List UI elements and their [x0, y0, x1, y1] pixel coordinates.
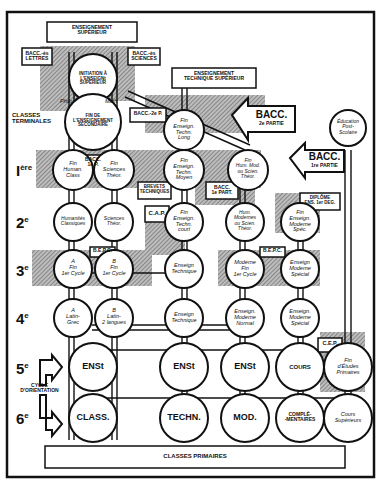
text-line: Spécial — [282, 272, 318, 278]
box-bepc-left: B.E.P.C. — [90, 248, 115, 253]
node-fin-1er-cycle-b: B Fin 1er Cycle — [96, 259, 132, 276]
text-line: BACC. — [248, 110, 295, 121]
level-6e: 6e — [16, 410, 29, 427]
node-ens-1: ENSt — [73, 362, 113, 371]
node-techn: TECHN. — [161, 413, 207, 422]
node-fin-sciences-theor: Fin Sciences Théor. — [96, 161, 132, 178]
arrow-cycle-6e-icon — [40, 395, 62, 436]
arrow-cycle-5e-icon — [40, 355, 62, 385]
node-enseign-moderne-special-4: Enseign. Moderne Spécial — [282, 309, 318, 326]
text-line: court — [166, 227, 202, 233]
text-line: TECHNIQUE SUPÉRIEUR — [172, 76, 256, 81]
text-line: TECHNIQUES — [138, 190, 171, 195]
node-fin-ens-moderne-spec: Fin Enseign. Moderne Spéc. — [282, 210, 318, 233]
box-bepc-right: B.E.P.C. — [260, 248, 285, 253]
text-line: 1er Cycle — [55, 271, 91, 277]
text-line: Technique — [166, 269, 202, 275]
level-suffix: e — [24, 215, 28, 224]
node-fin-1er-cycle-a: A Fin 1er Cycle — [55, 259, 91, 276]
node-enseign-technique-4: Enseign Technique — [166, 312, 202, 324]
box-bacc-sciences: BACC.-ès SCIENCES — [128, 51, 160, 62]
label-classes-terminales: CLASSES TERMINALES — [12, 112, 52, 125]
text-line: Théor. — [230, 174, 266, 179]
node-fin-tech-long: Fin Enseign. Techn. Long — [166, 118, 202, 141]
text-line: 1er Cycle — [96, 271, 132, 277]
text-line: Théor. — [227, 226, 263, 231]
text-line: TERMINALES — [12, 118, 52, 124]
node-enseign-moderne-normal: Enseign. Moderne Normal — [227, 309, 263, 326]
node-fin-tech-court: Fin Enseign. Techn. court — [166, 210, 202, 233]
arrow-label-bacc-2e: BACC. 2e PARTIE — [248, 110, 295, 126]
node-hum-modernes: Hum. Modernes ou Scien. Théor. — [227, 210, 263, 231]
text-line: SUPÉRIEUR — [47, 30, 137, 35]
text-line: 1re PARTIE — [305, 163, 344, 168]
node-fin-tech-moyen: Fin Enseign. Techn. Moyen — [166, 158, 202, 181]
box-bacc-2e-p: BACC.-2e P. — [130, 111, 166, 116]
text-line: Supérieurs — [326, 418, 370, 424]
level-suffix: e — [24, 361, 28, 370]
text-line: Classiques — [55, 221, 91, 226]
node-latin-grec: A Latin- Grec — [55, 308, 91, 325]
level-suffix: e — [24, 311, 28, 320]
text-line: Technique — [166, 318, 202, 324]
box-diplome: DIPLÔME ENS. 1er DEG. — [300, 196, 340, 205]
node-complementaires: COMPLÉ- -MENTAIRES — [277, 412, 323, 423]
text-line: Scolaire — [331, 130, 365, 135]
node-fin-etudes-primaires: Fin d'Études Primaires — [328, 358, 368, 375]
text-line: Primaires — [328, 370, 368, 376]
text-line: Class — [55, 173, 91, 179]
text-line: 1er Cycle — [227, 272, 263, 278]
box-brevets-techniques: BREVETS TECHNIQUES — [138, 185, 171, 194]
node-mod: MOD. — [222, 413, 268, 422]
box-bacc-lettres: BACC.-ès LETTRES — [22, 51, 52, 62]
text-line: -MENTAIRES — [277, 417, 323, 422]
text-line: Moyen — [166, 175, 202, 181]
text-line: LETTRES — [22, 56, 52, 61]
text-line: 1e PART. — [206, 190, 238, 195]
level-4e: 4e — [16, 310, 29, 327]
node-fin-secondaire: FIN DE L'ENSEIGNEMENT SECONDAIRE — [65, 114, 121, 128]
text-line: SCIENCES — [128, 56, 160, 61]
node-fin-human-class: Fin Human. Class — [55, 161, 91, 178]
text-line: Spécial — [282, 321, 318, 327]
node-cours: COURS — [280, 364, 320, 370]
text-line: 2e PARTIE — [248, 121, 295, 126]
text-line: Théor. — [96, 221, 132, 226]
text-line: ENS. 1er DEG. — [300, 201, 340, 206]
level-suffix: e — [24, 411, 28, 420]
box-enseignement-technique-superieur: ENSEIGNEMENT TECHNIQUE SUPÉRIEUR — [172, 71, 256, 82]
level-5e: 5e — [16, 360, 29, 377]
node-latin-2-langues: B Latin- 2 langues — [96, 308, 132, 325]
box-cep: C.E.P. — [318, 341, 342, 347]
text-line: SECONDAIRE — [65, 123, 121, 128]
node-class: CLASS. — [70, 413, 116, 422]
arrow-label-bacc-1e: BACC. 1re PARTIE — [305, 152, 344, 168]
label-math: Math — [105, 99, 117, 105]
node-sciences-theor: Sciences Théor. — [96, 216, 132, 227]
box-enseignement-superieur: ENSEIGNEMENT SUPÉRIEUR — [47, 25, 137, 36]
box-bacc-1e-part: BACC. 1e PART. — [206, 185, 238, 196]
label-philo: Philo — [60, 99, 72, 105]
level-2e: 2e — [16, 214, 29, 231]
node-moderne-fin-1er-cycle: Moderne Fin 1er Cycle — [227, 260, 263, 277]
node-education-post-scolaire: Éducation Post- Scolaire — [331, 119, 365, 135]
node-ens-3: ENSt — [225, 362, 265, 371]
node-fin-hum-mod: Fin Hum. Mod. ou Scien. Théor. — [230, 158, 266, 179]
education-diagram: ENSEIGNEMENT SUPÉRIEUR BACC.-ès LETTRES … — [0, 0, 381, 482]
node-humanites-classiques: Humanités Classiques — [55, 216, 91, 227]
box-classes-primaires: CLASSES PRIMAIRES — [45, 453, 345, 459]
text-line: Long — [166, 135, 202, 141]
text-line: 2 langues — [96, 320, 132, 326]
text-line: D'ORIENTATION — [12, 388, 67, 393]
text-line: Normal — [227, 321, 263, 327]
text-line: Théor. — [96, 173, 132, 179]
node-enseign-moderne-special-3: Enseign Moderne Spécial — [282, 260, 318, 277]
level-suffix: e — [24, 263, 28, 272]
level-suffix: ère — [20, 163, 32, 172]
text-line: Grec — [55, 320, 91, 326]
level-3e: 3e — [16, 262, 29, 279]
text-line: Spéc. — [282, 227, 318, 233]
text-line: L'ENSEIGNt SUPÉRIEUR — [68, 77, 118, 86]
node-ens-2: ENSt — [164, 362, 204, 371]
level-1ere: Ière — [16, 162, 32, 179]
